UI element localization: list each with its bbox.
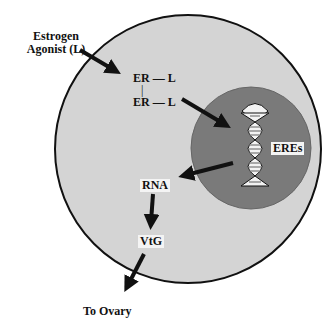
er-l-complex-bottom: ER — L [133,96,176,109]
to-ovary-label: To Ovary [83,305,132,318]
arrow-rna-to-vtg [151,194,153,222]
vtg-label: VtG [138,235,164,248]
estrogen-agonist-label: Estrogen Agonist (L) [20,30,92,56]
rna-label: RNA [140,179,170,192]
er-l-complex-top: ER — L [133,72,176,85]
agonist-line2: Agonist (L) [20,43,92,56]
eres-label: EREs [271,142,304,155]
